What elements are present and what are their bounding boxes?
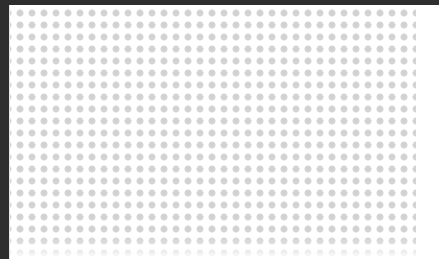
canvas-surface[interactable]	[10, 5, 439, 259]
left-rail[interactable]	[0, 0, 9, 259]
app-root	[0, 0, 439, 259]
left-rail-seam	[9, 5, 10, 259]
canvas-right-gutter	[416, 5, 439, 259]
top-chrome-band	[0, 0, 439, 5]
dot-grid-pattern	[10, 5, 416, 259]
